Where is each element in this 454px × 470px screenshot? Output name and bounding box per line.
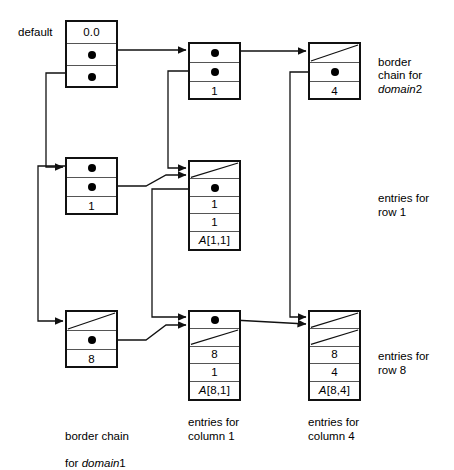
label-border-chain-domain1-line1: border chain <box>65 430 129 442</box>
pointer-dot <box>88 164 96 172</box>
cell-d2c4-null-1 <box>310 44 359 63</box>
cell-e84-value: A[8,4] <box>310 382 359 399</box>
cell-e81-ptr <box>190 312 239 329</box>
label-domain2-num: 2 <box>416 83 422 95</box>
cell-e84-col: 4 <box>310 364 359 381</box>
cell-e84-null-2 <box>310 329 359 346</box>
e84-col-text: 4 <box>331 367 338 379</box>
default-value-text: 0.0 <box>83 27 100 39</box>
pointer-dot <box>331 68 339 76</box>
cell-default-ptr-1 <box>67 44 116 66</box>
label-entries-column-4: entries for column 4 <box>308 416 359 443</box>
entry-node-a-1-1[interactable]: 1 1 A[1,1] <box>188 160 241 251</box>
cell-d2c4-ptr <box>310 63 359 82</box>
default-header-node[interactable]: 0.0 <box>65 20 118 88</box>
pointer-dot <box>211 184 219 192</box>
cell-d2c1-index: 1 <box>190 82 239 101</box>
cell-e81-value: A[8,1] <box>190 382 239 399</box>
label-domain2-italic: domain <box>378 83 416 95</box>
null-slash-icon <box>310 329 359 345</box>
cell-e11-null <box>190 162 239 179</box>
cell-e84-null-1 <box>310 312 359 329</box>
label-border-chain-domain2: border chain for domain2 <box>378 42 454 96</box>
cell-default-value: 0.0 <box>67 22 116 44</box>
cell-e11-ptr <box>190 179 239 196</box>
label-default: default <box>18 26 53 40</box>
e11-value-text: A[1,1] <box>199 235 230 247</box>
null-slash-icon <box>67 312 116 330</box>
cell-d2c1-ptr-1 <box>190 44 239 63</box>
null-slash-icon <box>310 312 359 328</box>
d2c1-index-text: 1 <box>211 86 218 98</box>
cell-e81-null <box>190 329 239 346</box>
e81-row-text: 8 <box>211 349 218 361</box>
cell-e81-row: 8 <box>190 347 239 364</box>
cell-e81-col: 1 <box>190 364 239 381</box>
border-node-domain1-row8[interactable]: 8 <box>65 310 118 368</box>
cell-d1r8-null-1 <box>67 312 116 331</box>
d1r1-index-text: 1 <box>88 201 95 213</box>
label-entries-row-8: entries for row 8 <box>378 350 429 377</box>
e84-row-text: 8 <box>331 349 338 361</box>
d1r8-index-text: 8 <box>88 354 95 366</box>
null-slash-icon <box>190 329 239 345</box>
entry-node-a-8-1[interactable]: 8 1 A[8,1] <box>188 310 241 401</box>
d2c4-index-text: 4 <box>331 86 338 98</box>
border-node-domain2-col4[interactable]: 4 <box>308 42 361 100</box>
label-border-chain-domain1-pre: for <box>65 457 82 469</box>
cell-d1r1-ptr-2 <box>67 178 116 197</box>
e81-value-text: A[8,1] <box>199 385 230 397</box>
label-domain1-italic: domain <box>82 457 120 469</box>
cell-e11-value: A[1,1] <box>190 232 239 249</box>
label-entries-row-1: entries for row 1 <box>378 192 429 219</box>
entry-node-a-8-4[interactable]: 8 4 A[8,4] <box>308 310 361 401</box>
pointer-dot <box>211 68 219 76</box>
cell-d1r8-index: 8 <box>67 350 116 369</box>
cell-d1r8-ptr <box>67 331 116 350</box>
null-slash-icon <box>310 44 359 62</box>
cell-default-ptr-2 <box>67 66 116 88</box>
e84-value-text: A[8,4] <box>319 385 350 397</box>
pointer-dot <box>88 73 96 81</box>
border-node-domain1-row1[interactable]: 1 <box>65 157 118 215</box>
cell-e84-row: 8 <box>310 347 359 364</box>
cell-e11-col: 1 <box>190 214 239 231</box>
e11-col-text: 1 <box>211 217 218 229</box>
null-slash-icon <box>190 162 239 178</box>
pointer-dot <box>88 336 96 344</box>
cell-d2c4-index: 4 <box>310 82 359 101</box>
pointer-dot <box>88 51 96 59</box>
border-node-domain2-col1[interactable]: 1 <box>188 42 241 100</box>
label-domain1-num: 1 <box>119 457 125 469</box>
cell-e11-row: 1 <box>190 197 239 214</box>
wire-d2c4-to-e84 <box>290 72 335 317</box>
e81-col-text: 1 <box>211 367 218 379</box>
label-entries-column-1: entries for column 1 <box>188 416 239 443</box>
cell-d1r1-ptr-1 <box>67 159 116 178</box>
pointer-dot <box>88 183 96 191</box>
cell-d2c1-ptr-2 <box>190 63 239 82</box>
label-border-chain-domain1: border chain for domain1 <box>65 416 129 470</box>
label-border-chain-domain2-text: border chain for <box>378 56 422 82</box>
cell-d1r1-index: 1 <box>67 197 116 216</box>
e11-row-text: 1 <box>211 199 218 211</box>
pointer-dot <box>211 316 219 324</box>
pointer-dot <box>211 49 219 57</box>
